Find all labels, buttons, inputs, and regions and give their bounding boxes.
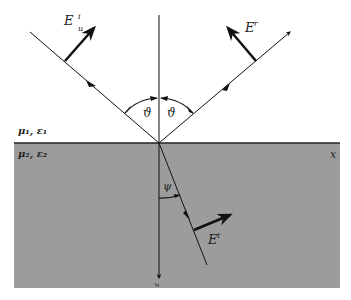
incident-ray [30, 32, 159, 143]
incident-ray-direction-arrow [86, 80, 96, 87]
z-axis-label: z [153, 282, 162, 288]
reflection-refraction-diagram: μ₁, ε₁ μ₂, ε₂ x z E i u E r E t ϑ ϑ ψ [0, 0, 351, 300]
incidence-angle-label: ϑ [143, 106, 152, 120]
refraction-angle-label: ψ [163, 180, 172, 193]
reflected-field-sup: r [254, 19, 259, 28]
incident-field-sup: i [78, 12, 81, 21]
medium-2-region [14, 143, 340, 288]
medium-1-label: μ₁, ε₁ [18, 125, 47, 137]
incident-field-label: E [63, 13, 74, 28]
x-axis-label: x [330, 148, 337, 161]
incident-field-sub: u [78, 24, 83, 33]
reflected-ray-direction-arrow [222, 83, 230, 91]
reflection-angle-label: ϑ [167, 106, 176, 120]
reflected-ray [159, 32, 290, 143]
medium-2-label: μ₂, ε₂ [18, 148, 48, 160]
